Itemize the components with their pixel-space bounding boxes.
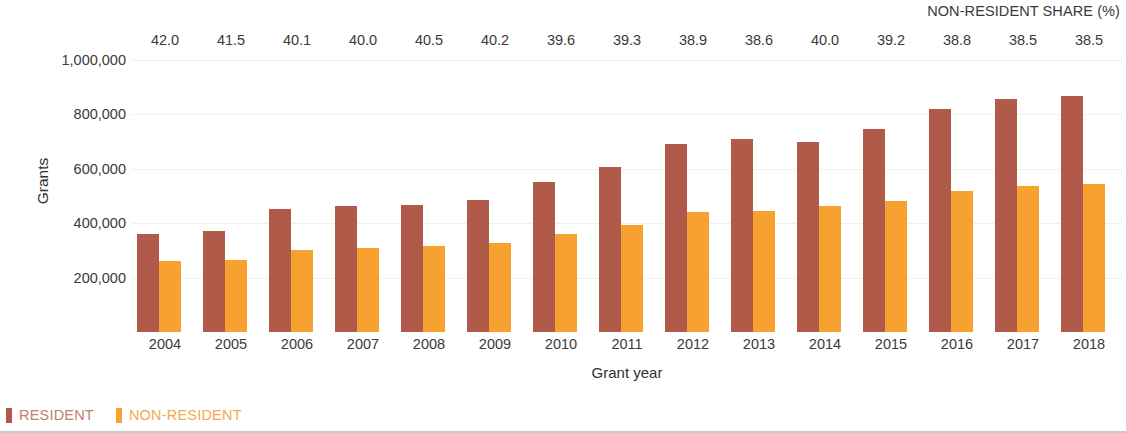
bar-non-resident (1017, 186, 1039, 332)
bar-resident (797, 142, 819, 332)
bar-resident (863, 129, 885, 332)
non-resident-share-value: 42.0 (132, 32, 198, 48)
bar-non-resident (159, 261, 181, 332)
legend-label: NON-RESIDENT (129, 407, 242, 423)
bar-non-resident (687, 212, 709, 332)
x-axis-tick-label: 2012 (660, 336, 726, 352)
bar-resident (665, 144, 687, 332)
bar-group (264, 60, 330, 332)
bar-resident (467, 200, 489, 332)
bar-group (132, 60, 198, 332)
legend-swatch-icon (116, 408, 122, 423)
bar-group (1056, 60, 1122, 332)
bar-resident (599, 167, 621, 332)
bar-non-resident (291, 250, 313, 332)
bar-group (528, 60, 594, 332)
bar-non-resident (489, 243, 511, 332)
x-axis-tick-label: 2017 (990, 336, 1056, 352)
bar-group (462, 60, 528, 332)
bar-group (858, 60, 924, 332)
plot-area (132, 60, 1122, 332)
bar-resident (137, 234, 159, 332)
legend-item[interactable]: NON-RESIDENT (116, 407, 242, 423)
x-axis-tick-label: 2008 (396, 336, 462, 352)
non-resident-share-value: 40.0 (792, 32, 858, 48)
x-axis-tick-label: 2015 (858, 336, 924, 352)
bar-resident (533, 182, 555, 332)
bar-non-resident (555, 234, 577, 332)
non-resident-share-value: 40.1 (264, 32, 330, 48)
bar-resident (929, 109, 951, 332)
x-axis-tick-label: 2005 (198, 336, 264, 352)
bar-non-resident (423, 246, 445, 332)
x-axis-tick-label: 2014 (792, 336, 858, 352)
y-axis-tick-label: 200,000 (0, 271, 126, 286)
x-axis-tick-labels: 2004200520062007200820092010201120122013… (132, 336, 1122, 356)
bar-resident (335, 206, 357, 332)
bar-group (594, 60, 660, 332)
y-axis-tick-label: 600,000 (0, 162, 126, 177)
bar-group (726, 60, 792, 332)
non-resident-share-value: 41.5 (198, 32, 264, 48)
non-resident-share-value-row: 42.041.540.140.040.540.239.639.338.938.6… (0, 32, 1126, 52)
legend-item[interactable]: RESIDENT (6, 407, 94, 423)
y-axis-tick-label: 800,000 (0, 107, 126, 122)
chart-legend: RESIDENTNON-RESIDENT (6, 407, 242, 423)
non-resident-share-value: 39.6 (528, 32, 594, 48)
bar-resident (269, 209, 291, 332)
x-axis-title: Grant year (132, 364, 1122, 381)
bar-non-resident (951, 191, 973, 332)
bar-group (396, 60, 462, 332)
x-axis-tick-label: 2016 (924, 336, 990, 352)
non-resident-share-value: 38.9 (660, 32, 726, 48)
y-axis-tick-label: 1,000,000 (0, 53, 126, 68)
x-axis-tick-label: 2006 (264, 336, 330, 352)
bar-group (924, 60, 990, 332)
bar-resident (731, 139, 753, 332)
bar-resident (1061, 96, 1083, 332)
bar-resident (401, 205, 423, 332)
y-axis-tick-label: 400,000 (0, 216, 126, 231)
bar-group (660, 60, 726, 332)
non-resident-share-value: 38.6 (726, 32, 792, 48)
non-resident-share-value: 39.3 (594, 32, 660, 48)
bar-non-resident (753, 211, 775, 332)
bar-non-resident (225, 260, 247, 332)
x-axis-tick-label: 2011 (594, 336, 660, 352)
legend-swatch-icon (6, 408, 12, 423)
non-resident-share-value: 40.5 (396, 32, 462, 48)
x-axis-tick-label: 2009 (462, 336, 528, 352)
non-resident-share-value: 38.5 (1056, 32, 1122, 48)
legend-label: RESIDENT (19, 407, 94, 423)
bar-group (792, 60, 858, 332)
non-resident-share-value: 39.2 (858, 32, 924, 48)
non-resident-share-value: 38.8 (924, 32, 990, 48)
non-resident-share-value: 40.0 (330, 32, 396, 48)
non-resident-share-value: 40.2 (462, 32, 528, 48)
non-resident-share-value: 38.5 (990, 32, 1056, 48)
bar-chart-figure: NON-RESIDENT SHARE (%) 42.041.540.140.04… (0, 0, 1126, 433)
x-axis-tick-label: 2018 (1056, 336, 1122, 352)
bar-group (198, 60, 264, 332)
bar-group (330, 60, 396, 332)
bar-resident (203, 231, 225, 332)
bar-non-resident (357, 248, 379, 332)
x-axis-tick-label: 2010 (528, 336, 594, 352)
secondary-axis-title: NON-RESIDENT SHARE (%) (927, 3, 1120, 19)
bar-non-resident (819, 206, 841, 332)
x-axis-tick-label: 2004 (132, 336, 198, 352)
bar-non-resident (1083, 184, 1105, 332)
x-axis-tick-label: 2013 (726, 336, 792, 352)
bar-non-resident (621, 225, 643, 332)
bar-resident (995, 99, 1017, 332)
bar-group (990, 60, 1056, 332)
x-axis-tick-label: 2007 (330, 336, 396, 352)
bar-non-resident (885, 201, 907, 332)
